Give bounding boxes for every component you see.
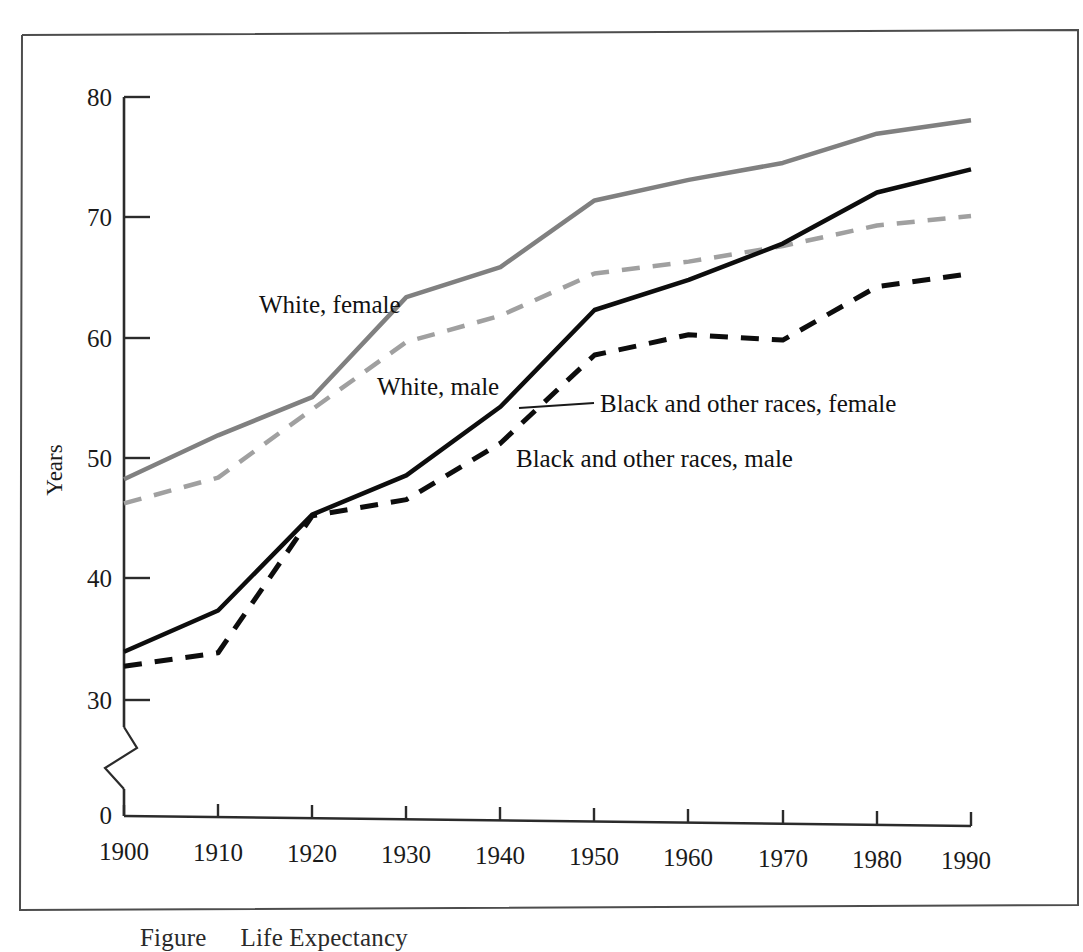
x-tick-label-1950: 1950 — [569, 843, 619, 870]
x-tick-label-1900: 1900 — [99, 838, 149, 865]
x-tick-label-1980: 1980 — [852, 846, 902, 873]
series-label-black-female: Black and other races, female — [600, 390, 896, 417]
x-tick-label-1930: 1930 — [381, 841, 431, 868]
series-line-white-female — [124, 120, 971, 479]
caption-prefix: Figure — [140, 924, 206, 951]
figure-caption: FigureLife Expectancy — [140, 924, 408, 952]
x-tick-label-1960: 1960 — [663, 844, 713, 871]
caption-text: Life Expectancy — [240, 924, 408, 951]
y-tick-label-40: 40 — [87, 565, 112, 592]
x-tick-label-1990: 1990 — [941, 847, 991, 874]
y-tick-label-0: 0 — [100, 802, 113, 829]
series-label-white-male: White, male — [377, 373, 499, 400]
series-label-white-female: White, female — [259, 291, 401, 318]
series-label-black-male: Black and other races, male — [516, 445, 793, 472]
y-tick-label-60: 60 — [87, 325, 112, 352]
x-axis-line — [124, 816, 971, 826]
y-axis-break — [105, 727, 137, 789]
y-tick-label-30: 30 — [87, 687, 112, 714]
x-tick-label-1970: 1970 — [758, 845, 808, 872]
x-tick-label-1940: 1940 — [475, 842, 525, 869]
y-axis-title: Years — [42, 444, 67, 495]
x-tick-label-1910: 1910 — [193, 839, 243, 866]
y-tick-label-70: 70 — [87, 204, 112, 231]
x-tick-label-1920: 1920 — [287, 840, 337, 867]
leader-line-black-female — [519, 403, 594, 408]
y-tick-label-80: 80 — [87, 84, 112, 111]
y-tick-label-50: 50 — [87, 445, 112, 472]
